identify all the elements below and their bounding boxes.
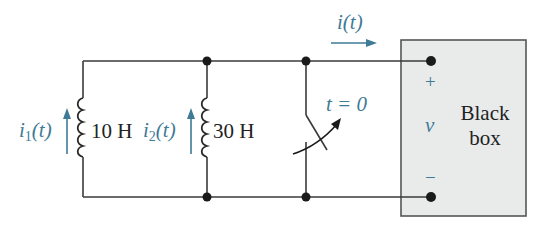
current-arrow-i-icon <box>331 39 377 47</box>
black-box-line2: box <box>455 128 515 149</box>
node-top-2 <box>302 57 311 66</box>
inductor-coil-icon <box>78 98 83 157</box>
node-top-1 <box>203 57 212 66</box>
node-bottom-2 <box>302 193 311 202</box>
inductor-value-10h: 10 H <box>91 121 132 142</box>
current-arrow-i2-icon <box>187 108 195 154</box>
plus-sign: + <box>425 72 436 91</box>
minus-sign: − <box>425 168 436 187</box>
switch-label: t = 0 <box>326 94 367 115</box>
inductor-value-30h: 30 H <box>213 121 254 142</box>
current-arrow-i1-icon <box>63 108 71 154</box>
black-box-title: Black box <box>455 103 515 149</box>
black-box-line1: Black <box>455 103 515 124</box>
voltage-label: v <box>425 115 434 136</box>
switch <box>293 61 341 197</box>
inductor-30h <box>202 61 207 197</box>
inductor-coil-icon <box>202 98 207 157</box>
output-current-label: i(t) <box>337 12 363 33</box>
terminal-minus <box>426 192 436 202</box>
current-label-i2: i2(t) <box>143 120 176 144</box>
terminal-plus <box>426 56 436 66</box>
inductor-10h <box>78 61 83 197</box>
node-bottom-1 <box>203 193 212 202</box>
current-label-i1: i1(t) <box>19 120 52 144</box>
